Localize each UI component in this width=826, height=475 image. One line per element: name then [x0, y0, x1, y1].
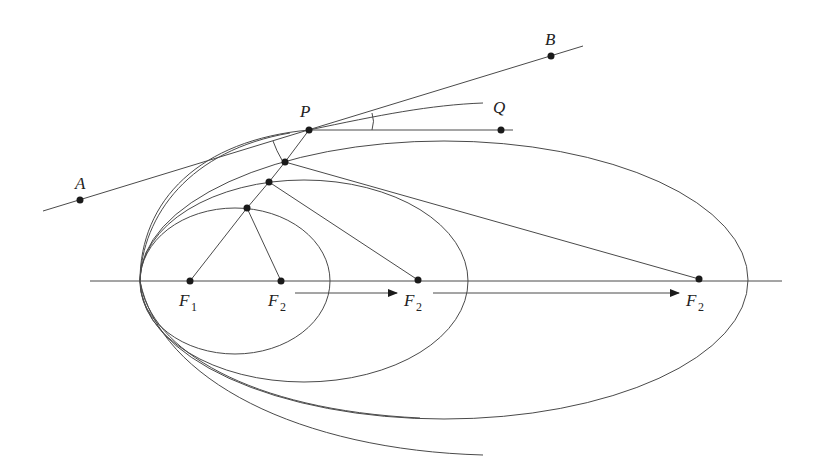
svg-text:F: F	[267, 291, 279, 310]
label-p: P	[299, 102, 310, 121]
focus-f2-large-dot	[696, 276, 703, 283]
label-f1: F 1	[178, 291, 197, 314]
ellipse-parabola-diagram: A B P Q F 1 F 2 F 2 F 2	[0, 0, 826, 475]
label-f2-small: F 2	[267, 291, 286, 314]
svg-text:1: 1	[191, 300, 197, 314]
svg-text:F: F	[178, 291, 190, 310]
svg-text:F: F	[685, 291, 697, 310]
focal-radius-f1-chain	[190, 130, 309, 281]
label-f2-large: F 2	[685, 291, 704, 314]
focus-f2-small-dot	[278, 278, 285, 285]
point-q-dot	[498, 127, 505, 134]
point-p-dot	[306, 127, 313, 134]
svg-text:2: 2	[280, 300, 286, 314]
angle-arc-a	[273, 141, 283, 162]
outer-curve-upper	[140, 133, 290, 281]
point-medium-ellipse-dot	[266, 179, 273, 186]
svg-text:F: F	[403, 291, 415, 310]
focus-f1-dot	[187, 278, 194, 285]
label-b: B	[545, 30, 556, 49]
focal-radius-large-f2	[285, 162, 699, 279]
point-b-dot	[548, 53, 555, 60]
point-large-ellipse-dot	[282, 159, 289, 166]
large-ellipse	[140, 141, 748, 419]
angle-arc-q	[372, 113, 374, 130]
point-a-dot	[77, 197, 84, 204]
label-q: Q	[493, 98, 505, 117]
svg-text:2: 2	[698, 300, 704, 314]
label-f2-medium: F 2	[403, 291, 422, 314]
svg-text:2: 2	[416, 300, 422, 314]
label-a: A	[74, 174, 86, 193]
point-small-ellipse-dot	[244, 205, 251, 212]
focal-radius-small-f2	[247, 208, 281, 281]
focus-f2-medium-dot	[415, 277, 422, 284]
